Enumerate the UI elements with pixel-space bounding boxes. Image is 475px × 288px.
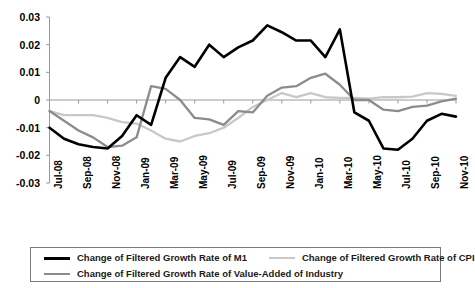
legend-item-cpi: Change of Filtered Growth Rate of CPI xyxy=(269,253,475,263)
x-tick-label: Mar-09 xyxy=(170,157,180,189)
y-tick-label: 0 xyxy=(0,95,40,105)
x-tick-label: May-10 xyxy=(373,155,383,189)
x-tick-label: Jan-09 xyxy=(141,157,151,189)
y-tick-label: 0.03 xyxy=(0,12,40,22)
legend-swatch-industry-icon xyxy=(44,273,70,275)
x-tick-label: Jul-09 xyxy=(228,160,238,189)
x-tick-label: Sep-10 xyxy=(431,156,441,189)
x-tick-label: Nov-09 xyxy=(286,156,296,189)
y-tick-label: -0.03 xyxy=(0,178,40,188)
legend-row-1: Change of Filtered Growth Rate of M1 Cha… xyxy=(44,253,475,263)
legend-item-industry: Change of Filtered Growth Rate of Value-… xyxy=(44,269,343,279)
legend-item-m1: Change of Filtered Growth Rate of M1 xyxy=(44,253,247,263)
chart-legend: Change of Filtered Growth Rate of M1 Cha… xyxy=(30,247,441,282)
x-tick-label: Sep-08 xyxy=(83,156,93,189)
legend-swatch-m1-icon xyxy=(44,257,70,260)
legend-label-industry: Change of Filtered Growth Rate of Value-… xyxy=(77,269,343,279)
x-tick-label: Sep-09 xyxy=(257,156,267,189)
x-tick-label: Jul-08 xyxy=(54,160,64,189)
x-tick-label: Mar-10 xyxy=(344,157,354,189)
x-tick-label: May-09 xyxy=(199,155,209,189)
legend-row-2: Change of Filtered Growth Rate of Value-… xyxy=(44,269,343,279)
legend-swatch-cpi-icon xyxy=(269,257,295,259)
x-tick-label: Nov-10 xyxy=(460,156,470,189)
y-tick-label: -0.01 xyxy=(0,123,40,133)
x-tick-label: Jan-10 xyxy=(315,157,325,189)
y-tick-label: -0.02 xyxy=(0,150,40,160)
legend-label-m1: Change of Filtered Growth Rate of M1 xyxy=(77,253,247,263)
y-tick-label: 0.02 xyxy=(0,40,40,50)
series-line xyxy=(50,74,457,147)
y-tick-label: 0.01 xyxy=(0,67,40,77)
x-tick-label: Nov-08 xyxy=(112,156,122,189)
legend-label-cpi: Change of Filtered Growth Rate of CPI xyxy=(302,253,475,263)
x-tick-label: Jul-10 xyxy=(402,160,412,189)
series-line xyxy=(50,25,457,150)
